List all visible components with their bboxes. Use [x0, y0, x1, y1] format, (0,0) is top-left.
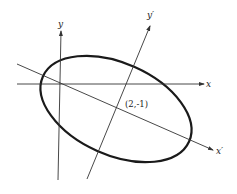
x-axis-label: x — [206, 79, 211, 89]
center-point-label: (2,-1) — [125, 99, 148, 109]
coordinate-diagram: x y x′ y′ (2,-1) — [0, 0, 237, 194]
y-prime-axis-label: y′ — [146, 10, 154, 20]
x-prime-axis-label: x′ — [216, 146, 223, 156]
y-axis — [58, 31, 61, 180]
y-axis-label: y — [57, 19, 64, 29]
